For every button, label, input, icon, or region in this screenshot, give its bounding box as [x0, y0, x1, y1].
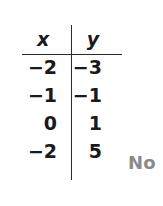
cell-x: −2 [22, 53, 64, 81]
cell-x: −1 [22, 81, 64, 109]
cell-y: −1 [64, 81, 122, 109]
header-horizontal-rule [22, 54, 122, 55]
cell-y: 5 [64, 137, 122, 165]
table-header: x y [22, 25, 122, 53]
table-row: 0 1 [22, 109, 122, 137]
cell-y: −3 [64, 53, 122, 81]
cell-x: 0 [22, 109, 64, 137]
column-header-y: y [64, 25, 122, 53]
column-header-x: x [22, 25, 64, 53]
xy-value-table: x y −2 −3 −1 −1 0 1 −2 5 [22, 25, 122, 165]
answer-annotation: No [128, 152, 156, 173]
table-row: −1 −1 [22, 81, 122, 109]
cell-y: 1 [64, 109, 122, 137]
table-body: −2 −3 −1 −1 0 1 −2 5 [22, 53, 122, 165]
value-table-figure: x y −2 −3 −1 −1 0 1 −2 5 No [0, 0, 163, 206]
table-row: −2 −3 [22, 53, 122, 81]
table-row: −2 5 [22, 137, 122, 165]
table-header-row: x y [22, 25, 122, 53]
column-vertical-divider [71, 25, 72, 180]
cell-x: −2 [22, 137, 64, 165]
